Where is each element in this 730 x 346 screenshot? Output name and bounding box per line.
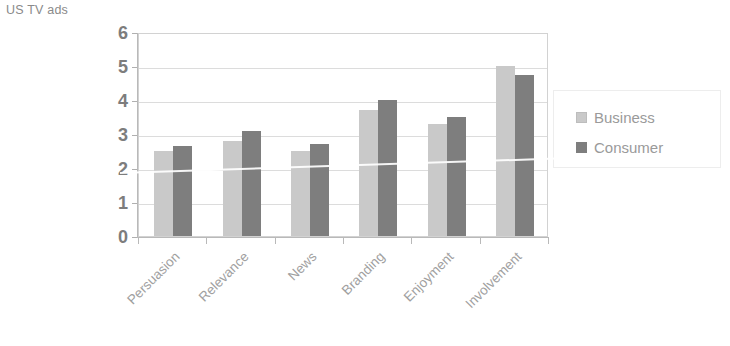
x-axis-tick-mark: [480, 238, 481, 244]
bar: [447, 117, 466, 236]
legend-item[interactable]: Business: [576, 109, 655, 126]
bar: [378, 100, 397, 236]
legend-swatch-icon: [576, 142, 587, 153]
y-axis-tick-label: 3: [102, 126, 128, 144]
y-axis-tick-mark: [132, 67, 137, 68]
y-axis-tick-mark: [132, 101, 137, 102]
legend-label: Business: [594, 109, 655, 126]
plot-area: [138, 33, 548, 237]
y-axis-tick-label: 6: [102, 24, 128, 42]
legend: BusinessConsumer: [553, 90, 721, 168]
bars-layer: [139, 34, 547, 236]
bar: [359, 110, 378, 236]
bar: [291, 151, 310, 236]
y-axis-tick-label: 4: [102, 92, 128, 110]
y-axis-tick-mark: [132, 33, 137, 34]
x-axis-tick-mark: [138, 238, 139, 244]
y-axis-tick-mark: [132, 169, 137, 170]
y-axis-tick-label: 1: [102, 194, 128, 212]
chart-container: US TV ads 0123456 PersuasionRelevanceNew…: [0, 0, 730, 346]
legend-label: Consumer: [594, 139, 663, 156]
y-axis-tick-label: 5: [102, 58, 128, 76]
y-axis-tick-mark: [132, 203, 137, 204]
bar: [496, 66, 515, 236]
x-axis-tick-mark: [411, 238, 412, 244]
y-axis-tick-label: 2: [102, 160, 128, 178]
legend-item[interactable]: Consumer: [576, 139, 663, 156]
bar: [515, 75, 534, 237]
y-axis-tick-label: 0: [102, 228, 128, 246]
bar: [428, 124, 447, 236]
bar: [223, 141, 242, 236]
bar: [154, 151, 173, 236]
x-axis-tick-mark: [275, 238, 276, 244]
bar: [242, 131, 261, 236]
chart-title: US TV ads: [6, 3, 68, 17]
bar: [310, 144, 329, 236]
legend-swatch-icon: [576, 112, 587, 123]
bar: [173, 146, 192, 236]
y-axis-tick-mark: [132, 135, 137, 136]
x-axis-tick-mark: [206, 238, 207, 244]
y-axis-tick-labels: 0123456: [100, 0, 128, 346]
x-axis-tick-mark: [343, 238, 344, 244]
x-axis-tick-mark: [548, 238, 549, 244]
